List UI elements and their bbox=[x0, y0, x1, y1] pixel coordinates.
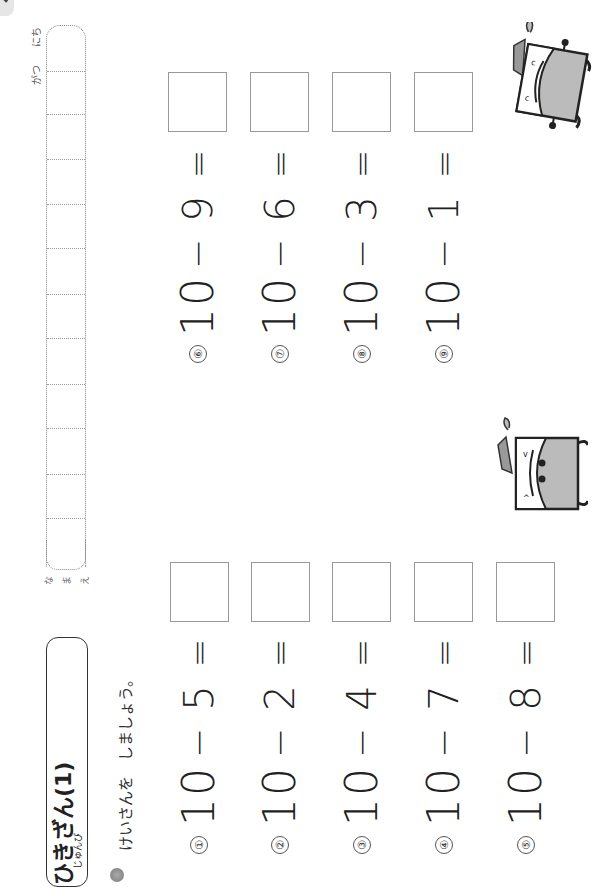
answer-box-8[interactable] bbox=[332, 72, 391, 132]
answer-box-1[interactable] bbox=[170, 562, 229, 622]
svg-text:^: ^ bbox=[523, 494, 530, 503]
subtrahend: 6 bbox=[260, 189, 300, 229]
subtrahend: 3 bbox=[342, 189, 382, 229]
problem-number: ⑦ bbox=[271, 345, 289, 363]
month-label: がつ bbox=[28, 62, 42, 88]
equals-sign: = bbox=[342, 144, 382, 184]
minuend: 10 bbox=[260, 766, 300, 826]
problem-number: ① bbox=[190, 836, 208, 854]
equals-sign: = bbox=[260, 144, 300, 184]
minuend: 10 bbox=[342, 766, 382, 826]
subtrahend: 1 bbox=[424, 189, 464, 229]
equals-sign: = bbox=[178, 144, 218, 184]
name-label-ma: ま bbox=[60, 574, 72, 586]
name-label-e: え bbox=[78, 574, 90, 586]
instruction-text: けいさんを しましょう。 bbox=[114, 641, 136, 851]
answer-box-3[interactable] bbox=[332, 562, 391, 622]
corner-tab bbox=[0, 0, 14, 16]
title-ruby: じゅんび bbox=[71, 819, 83, 869]
minus-sign: − bbox=[424, 723, 464, 763]
answer-box-2[interactable] bbox=[251, 562, 310, 622]
day-label: にち bbox=[28, 24, 42, 50]
pencil-icon bbox=[2, 0, 8, 3]
answer-box-7[interactable] bbox=[250, 72, 309, 132]
equals-sign: = bbox=[179, 633, 219, 673]
problem-number: ⑥ bbox=[189, 345, 207, 363]
problem-number: ⑤ bbox=[517, 836, 535, 854]
minuend: 10 bbox=[506, 766, 546, 826]
bullet-icon bbox=[110, 868, 124, 882]
answer-box-4[interactable] bbox=[414, 562, 473, 622]
equals-sign: = bbox=[342, 633, 382, 673]
minuend: 10 bbox=[342, 276, 382, 336]
name-field-end bbox=[46, 540, 86, 570]
minus-sign: − bbox=[178, 234, 218, 274]
name-label-na: な bbox=[42, 574, 54, 586]
minus-sign: − bbox=[342, 723, 382, 763]
minus-sign: − bbox=[260, 234, 300, 274]
minus-sign: − bbox=[506, 723, 546, 763]
equals-sign: = bbox=[424, 144, 464, 184]
name-field[interactable] bbox=[46, 25, 86, 567]
minus-sign: − bbox=[260, 723, 300, 763]
subtrahend: 5 bbox=[179, 678, 219, 718]
subtrahend: 9 bbox=[178, 189, 218, 229]
subtrahend: 4 bbox=[342, 678, 382, 718]
problem-number: ⑨ bbox=[435, 345, 453, 363]
problem-number: ④ bbox=[435, 836, 453, 854]
equals-sign: = bbox=[260, 633, 300, 673]
svg-text:v: v bbox=[523, 450, 528, 459]
minuend: 10 bbox=[424, 766, 464, 826]
subtrahend: 8 bbox=[506, 678, 546, 718]
minuend: 10 bbox=[424, 276, 464, 336]
answer-box-6[interactable] bbox=[168, 72, 227, 132]
problem-number: ③ bbox=[353, 836, 371, 854]
equals-sign: = bbox=[506, 633, 546, 673]
problem-number: ② bbox=[271, 836, 289, 854]
subtrahend: 2 bbox=[260, 678, 300, 718]
problem-number: ⑧ bbox=[353, 345, 371, 363]
minuend: 10 bbox=[179, 766, 219, 826]
mascot-character-top: cc bbox=[480, 22, 592, 140]
minus-sign: − bbox=[424, 234, 464, 274]
mascot-character-middle: v^ bbox=[478, 415, 588, 515]
minuend: 10 bbox=[178, 276, 218, 336]
answer-box-5[interactable] bbox=[496, 562, 555, 622]
equals-sign: = bbox=[424, 633, 464, 673]
minuend: 10 bbox=[260, 276, 300, 336]
answer-box-9[interactable] bbox=[414, 72, 473, 132]
minus-sign: − bbox=[342, 234, 382, 274]
minus-sign: − bbox=[179, 723, 219, 763]
subtrahend: 7 bbox=[424, 678, 464, 718]
